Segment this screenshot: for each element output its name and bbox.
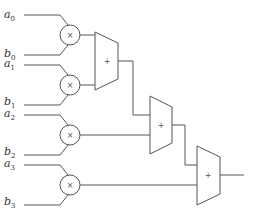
multiplier-group-1: a1 b1 × (4, 57, 95, 110)
adder-2: + (150, 96, 197, 165)
adder-1: + (95, 32, 150, 115)
input-b3-label: b3 (4, 195, 16, 210)
wire-adder2-out (172, 125, 197, 165)
multiplier-group-0: a0 b0 × (4, 8, 95, 62)
multiply-icon: × (67, 181, 74, 190)
wire-b1 (24, 95, 68, 105)
add-icon: + (205, 171, 212, 180)
wire-adder1-out (118, 61, 150, 115)
wire-b0 (24, 45, 68, 55)
wire-a3 (24, 165, 68, 175)
wire-a1 (24, 65, 68, 75)
multiplier-group-2: a2 b2 × (4, 107, 150, 160)
add-icon: + (158, 121, 165, 130)
wire-a0 (24, 15, 68, 25)
adder-3: + (197, 146, 244, 205)
multiply-icon: × (67, 131, 74, 140)
multiply-icon: × (67, 31, 74, 40)
multiply-icon: × (67, 81, 74, 90)
input-a0-label: a0 (4, 8, 15, 23)
multiplier-group-3: a3 b3 × (4, 157, 197, 210)
wire-a2 (24, 115, 68, 125)
sum-of-products-diagram: a0 b0 × a1 b1 × a2 b2 × a3 b3 × (0, 0, 255, 219)
wire-b3 (24, 195, 68, 205)
wire-b2 (24, 145, 68, 155)
add-icon: + (104, 57, 111, 66)
